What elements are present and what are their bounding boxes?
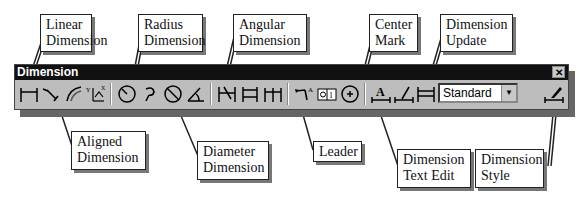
callout-text: Center (375, 17, 412, 33)
ordinate-dimension-button[interactable]: YX (85, 83, 107, 105)
toolbar-separator (210, 83, 212, 105)
callout-diameter-dimension: Diameter Dimension (197, 141, 269, 180)
continue-dimension-button[interactable] (262, 83, 284, 105)
callout-aligned-dimension: Aligned Dimension (71, 131, 146, 170)
callout-text: Diameter (203, 144, 263, 160)
jogged-icon (139, 83, 161, 105)
dimension-edit-button[interactable] (393, 83, 415, 105)
arc-length-icon (63, 83, 85, 105)
chevron-down-icon: ▼ (505, 88, 513, 97)
toolbar-separator (364, 83, 366, 105)
dimension-style-select[interactable]: Standard ▼ (438, 83, 518, 103)
callout-text: Text Edit (403, 168, 465, 184)
callout-dimension-update: Dimension Update (440, 14, 513, 52)
close-button[interactable]: ✕ (552, 66, 565, 78)
center-mark-button[interactable] (339, 83, 361, 105)
callout-text: Dimension (203, 160, 263, 176)
callout-text: Leader (319, 144, 356, 160)
dimension-update-icon (415, 83, 437, 105)
diameter-dimension-button[interactable] (162, 83, 184, 105)
callout-text: Radius (144, 17, 197, 33)
arc-length-dimension-button[interactable] (63, 83, 85, 105)
aligned-dimension-icon (40, 83, 62, 105)
dimension-edit-icon (393, 83, 415, 105)
quick-dimension-icon (216, 83, 238, 105)
close-icon: ✕ (555, 67, 563, 78)
dimension-text-edit-icon: A (370, 83, 392, 105)
toolbar-titlebar[interactable]: Dimension ✕ (15, 65, 568, 80)
callout-dimension-text-edit: Dimension Text Edit (397, 149, 471, 188)
callout-leader: Leader (313, 141, 362, 162)
callout-text: Dimension (446, 17, 507, 33)
callout-text: Angular (239, 17, 301, 33)
linear-dimension-icon (18, 83, 40, 105)
callout-text: Dimension (481, 152, 538, 168)
dimension-update-button[interactable] (415, 83, 437, 105)
dimension-toolbar: Dimension ✕ YX (14, 64, 569, 110)
svg-text:Y: Y (86, 87, 91, 93)
callout-text: Style (481, 168, 538, 184)
leader-button[interactable]: A (293, 83, 315, 105)
callout-text: Dimension (46, 33, 86, 49)
jogged-dimension-button[interactable] (139, 83, 161, 105)
dropdown-arrow-icon[interactable]: ▼ (501, 85, 516, 101)
dimension-style-value: Standard (443, 86, 492, 100)
callout-radius-dimension: Radius Dimension (138, 14, 203, 52)
callout-dimension-style: Dimension Style (475, 149, 544, 188)
dimension-text-edit-button[interactable]: A (370, 83, 392, 105)
ordinate-icon: YX (85, 83, 107, 105)
toolbar-icon-row: YX A (15, 80, 568, 109)
radius-dimension-icon (116, 83, 138, 105)
svg-text:A: A (308, 86, 313, 94)
leader-icon: A (293, 83, 315, 105)
dimension-style-icon (543, 83, 565, 105)
angular-dimension-icon (185, 83, 207, 105)
svg-text:1: 1 (329, 91, 333, 100)
continue-dimension-icon (262, 83, 284, 105)
callout-text: Dimension (144, 33, 197, 49)
angular-dimension-button[interactable] (185, 83, 207, 105)
baseline-dimension-button[interactable] (239, 83, 261, 105)
linear-dimension-button[interactable] (18, 83, 40, 105)
callout-text: Dimension (77, 150, 140, 166)
callout-text: Aligned (77, 134, 140, 150)
tolerance-button[interactable]: 1 (316, 83, 338, 105)
toolbar-separator (110, 83, 112, 105)
dimension-style-button[interactable] (543, 83, 565, 105)
tolerance-icon: 1 (316, 83, 338, 105)
svg-text:A: A (376, 85, 385, 99)
diameter-dimension-icon (162, 83, 184, 105)
radius-dimension-button[interactable] (116, 83, 138, 105)
aligned-dimension-button[interactable] (40, 83, 62, 105)
center-mark-icon (339, 83, 361, 105)
callout-text: Linear (46, 17, 86, 33)
callout-text: Dimension (239, 33, 301, 49)
toolbar-separator (287, 83, 289, 105)
svg-text:X: X (101, 85, 106, 91)
callout-center-mark: Center Mark (369, 14, 418, 52)
callout-text: Update (446, 33, 507, 49)
callout-angular-dimension: Angular Dimension (233, 14, 307, 52)
quick-dimension-button[interactable] (216, 83, 238, 105)
callout-linear-dimension: Linear Dimension (40, 14, 92, 52)
callout-text: Mark (375, 33, 412, 49)
callout-text: Dimension (403, 152, 465, 168)
baseline-dimension-icon (239, 83, 261, 105)
toolbar-title: Dimension (17, 65, 78, 79)
